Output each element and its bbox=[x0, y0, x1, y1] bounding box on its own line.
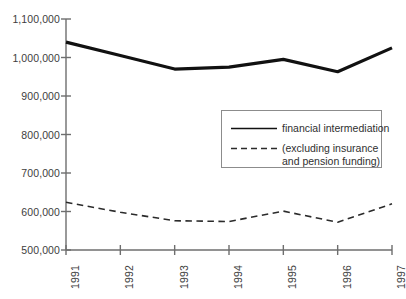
legend-label-excluding-insurance-and-pension-funding: (excluding insurance and pension funding… bbox=[282, 142, 380, 167]
y-axis-tick-label: 700,000 bbox=[4, 168, 60, 179]
line-chart: 1,100,0001,000,000900,000800,000700,0006… bbox=[0, 0, 406, 299]
x-axis-tick-label: 1992 bbox=[124, 265, 135, 289]
series-line-financial-intermediation bbox=[66, 42, 392, 72]
y-axis-tick-label: 1,000,000 bbox=[4, 53, 60, 64]
legend-solid-line-icon bbox=[230, 123, 278, 134]
legend-item-financial-intermediation: financial intermediation bbox=[230, 122, 389, 135]
x-axis-tick-label: 1996 bbox=[342, 265, 353, 289]
legend: financial intermediation (excluding insu… bbox=[221, 110, 382, 168]
x-axis-tick-label: 1995 bbox=[287, 265, 298, 289]
y-axis-tick-label: 1,100,000 bbox=[4, 14, 60, 25]
y-axis-tick-label: 900,000 bbox=[4, 91, 60, 102]
x-axis-tick-label: 1993 bbox=[179, 265, 190, 289]
x-axis-tick-label: 1997 bbox=[396, 265, 406, 289]
x-axis-tick-label: 1994 bbox=[233, 265, 244, 289]
series-line-excluding-insurance-and-pension-funding bbox=[66, 202, 392, 222]
legend-dashed-line-icon bbox=[230, 143, 278, 154]
y-axis-tick-label: 500,000 bbox=[4, 245, 60, 256]
legend-label-financial-intermediation: financial intermediation bbox=[282, 122, 389, 135]
legend-item-excluding-insurance-and-pension-funding: (excluding insurance and pension funding… bbox=[230, 142, 380, 167]
x-axis-tick-label: 1991 bbox=[70, 265, 81, 289]
y-axis-tick-label: 800,000 bbox=[4, 130, 60, 141]
y-axis-tick-label: 600,000 bbox=[4, 207, 60, 218]
